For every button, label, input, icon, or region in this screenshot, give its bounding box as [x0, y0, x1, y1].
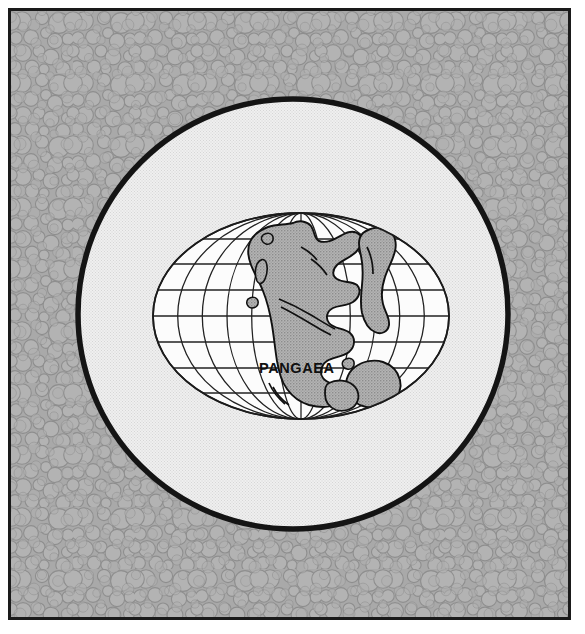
island-southeast-small: [342, 358, 354, 369]
illustration-frame: PANGAEA: [8, 8, 571, 620]
pangaea-south-tail: [325, 381, 358, 411]
mollweide-map-group: [153, 213, 449, 419]
illustration-page: PANGAEA: [0, 0, 585, 634]
island-northwest-fragment: [262, 233, 274, 244]
globe-and-map: [11, 11, 568, 617]
continent-label-pangaea: PANGAEA: [259, 360, 335, 376]
island-west-sliver: [256, 260, 268, 284]
island-west-small: [247, 297, 258, 308]
